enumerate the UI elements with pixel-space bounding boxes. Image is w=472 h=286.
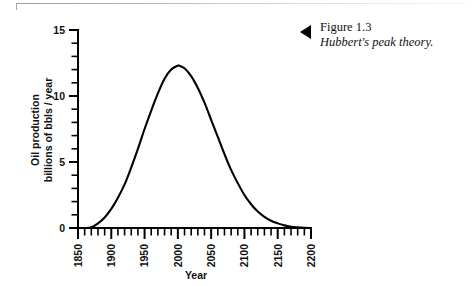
x-tick-label: 1950 [138, 244, 150, 268]
x-axis-ticks [78, 228, 311, 239]
y-tick-label: 0 [59, 222, 65, 234]
y-axis-ticks [69, 30, 78, 228]
y-tick-label: 5 [59, 156, 65, 168]
y-tick-label: 15 [53, 24, 65, 36]
production-curve [78, 65, 311, 228]
x-tick-label: 2000 [172, 244, 184, 268]
x-tick-label: 1900 [105, 244, 117, 268]
x-tick-label: 2200 [305, 244, 317, 268]
x-tick-label: 2050 [205, 244, 217, 268]
figure-page: Figure 1.3 Hubbert's peak theory. 051015… [0, 0, 472, 286]
chart-axes [78, 30, 311, 228]
x-tick-label: 2150 [272, 244, 284, 268]
x-tick-label: 2100 [238, 244, 250, 268]
y-tick-label: 10 [53, 90, 65, 102]
x-tick-label: 1850 [72, 244, 84, 268]
x-axis-title: Year [185, 269, 207, 281]
y-axis-title-line2: billions of bbls / year [42, 78, 54, 182]
hubbert-peak-chart: 051015 18501900195020002050210021502200 … [0, 0, 472, 286]
y-axis-title-line1: Oil production [29, 94, 41, 166]
y-axis-tick-labels: 051015 [53, 24, 65, 234]
x-axis-tick-labels: 18501900195020002050210021502200 [72, 244, 317, 268]
